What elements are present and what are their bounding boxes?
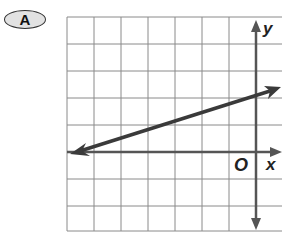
y-axis-up-arrow-icon (251, 20, 261, 32)
origin-label: O (234, 155, 248, 175)
coordinate-graph: y x O (0, 0, 282, 235)
y-axis-down-arrow-icon (251, 218, 261, 230)
y-axis-label: y (262, 19, 274, 38)
grid-lines (67, 17, 282, 231)
x-axis-label: x (265, 155, 277, 174)
